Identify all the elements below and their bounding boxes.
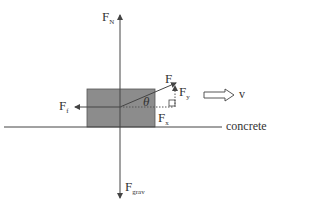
fx-label: Fx — [158, 111, 169, 127]
fy-label: Fy — [179, 85, 190, 101]
velocity-label: v — [239, 88, 245, 100]
right-angle-marker — [169, 100, 175, 106]
normal-force-label: FN — [102, 10, 114, 26]
angle-theta-label: θ — [143, 95, 149, 108]
friction-force-label: Ff — [59, 99, 69, 115]
gravity-force-label: Fgrav — [125, 180, 145, 196]
surface-label: concrete — [226, 120, 267, 132]
applied-force-label: F — [165, 72, 172, 85]
velocity-arrow-icon — [204, 89, 234, 101]
